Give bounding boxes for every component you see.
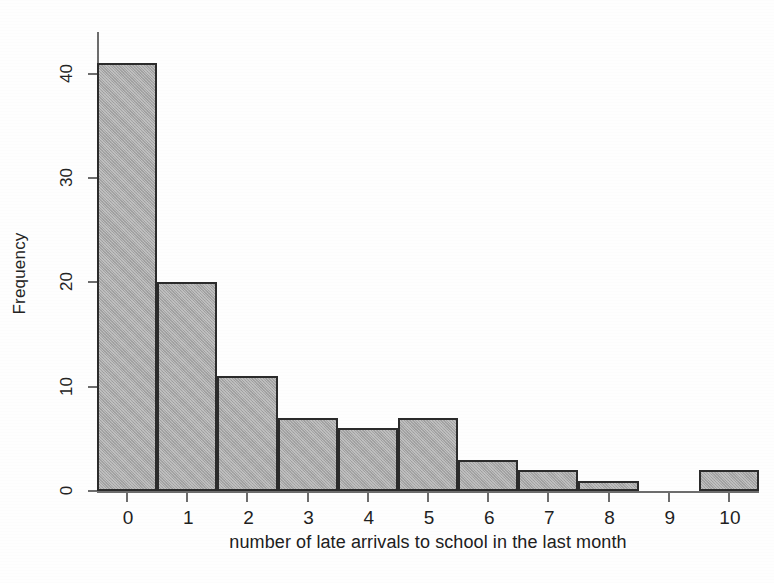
histogram-bar <box>578 481 638 491</box>
histogram-bar <box>699 470 759 491</box>
plot-area: 010203040 012345678910 <box>97 32 759 492</box>
histogram-bar <box>278 418 338 491</box>
y-axis-tick <box>88 490 97 492</box>
x-axis-tick <box>307 493 309 502</box>
y-axis-tick-label: 0 <box>58 474 75 508</box>
x-axis-tick-label: 0 <box>106 508 150 527</box>
histogram-bar <box>157 282 217 491</box>
histogram-bar <box>217 376 277 491</box>
x-axis-tick-label: 8 <box>588 508 632 527</box>
x-axis-tick-label: 3 <box>287 508 331 527</box>
x-axis-tick-label: 6 <box>467 508 511 527</box>
y-axis-title: Frequency <box>0 0 40 583</box>
x-axis-tick-label: 5 <box>407 508 451 527</box>
histogram-bar <box>518 470 578 491</box>
x-axis-tick <box>126 493 128 502</box>
x-axis-tick <box>427 493 429 502</box>
y-axis-title-text: Frequency <box>10 232 30 314</box>
histogram-bar <box>398 418 458 491</box>
y-axis-tick <box>88 281 97 283</box>
x-axis-tick <box>547 493 549 502</box>
histogram-figure: Frequency 010203040 012345678910 number … <box>0 0 774 583</box>
x-axis-tick <box>186 493 188 502</box>
y-axis-tick-label: 40 <box>58 56 75 90</box>
y-axis-tick-label: 10 <box>58 369 75 403</box>
histogram-bar <box>338 428 398 491</box>
x-axis-tick-label: 2 <box>226 508 270 527</box>
x-axis-tick <box>487 493 489 502</box>
x-axis-tick <box>728 493 730 502</box>
x-axis-tick <box>246 493 248 502</box>
histogram-bar <box>97 63 157 491</box>
y-axis-tick <box>88 386 97 388</box>
x-axis-tick-label: 4 <box>347 508 391 527</box>
x-axis-title: number of late arrivals to school in the… <box>97 532 759 553</box>
histogram-bar <box>458 460 518 491</box>
x-axis-tick <box>668 493 670 502</box>
x-axis-tick-label: 7 <box>527 508 571 527</box>
x-axis-tick-label: 1 <box>166 508 210 527</box>
x-axis-tick <box>608 493 610 502</box>
x-axis-tick-label: 9 <box>648 508 692 527</box>
y-axis-tick-label: 30 <box>58 161 75 195</box>
y-axis-tick <box>88 73 97 75</box>
y-axis-tick <box>88 177 97 179</box>
x-axis-tick <box>367 493 369 502</box>
y-axis-tick-label: 20 <box>58 265 75 299</box>
x-axis-tick-label: 10 <box>708 508 752 527</box>
